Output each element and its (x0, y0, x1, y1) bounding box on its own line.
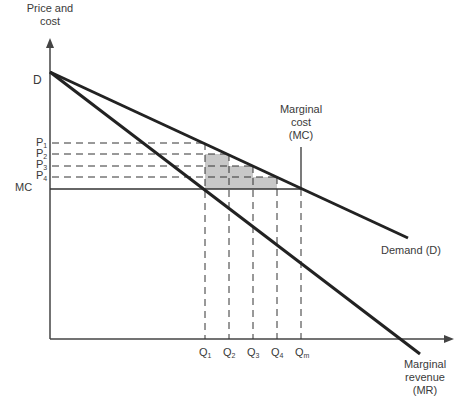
axes (50, 46, 446, 339)
label-mc: MC (15, 181, 32, 194)
diagram-svg (0, 0, 462, 402)
label-q3: Q3 (247, 346, 259, 362)
label-qm: Qm (295, 346, 309, 362)
label-p4: P4 (36, 169, 47, 185)
y-axis-arrow-icon (46, 38, 54, 48)
label-q4: Q4 (271, 346, 283, 362)
y-axis-label-line1: Price and (12, 2, 88, 15)
demand-curve (50, 72, 408, 238)
y-axis-label: Price and cost (12, 2, 88, 28)
marginal-revenue-curve (50, 72, 420, 354)
y-axis-label-line2: cost (12, 15, 88, 28)
demand-curve-label: Demand (D) (381, 244, 441, 257)
mr-curve-label: Marginal revenue (MR) (390, 358, 460, 397)
label-d: D (33, 74, 42, 87)
x-axis-arrow-icon (444, 335, 454, 343)
label-q2: Q2 (223, 346, 235, 362)
mc-curve-label: Marginal cost (MC) (268, 103, 334, 142)
diagram-canvas: Price and cost D P1 P2 P3 P4 MC Q1 Q2 Q3… (0, 0, 462, 402)
label-q1: Q1 (199, 346, 211, 362)
